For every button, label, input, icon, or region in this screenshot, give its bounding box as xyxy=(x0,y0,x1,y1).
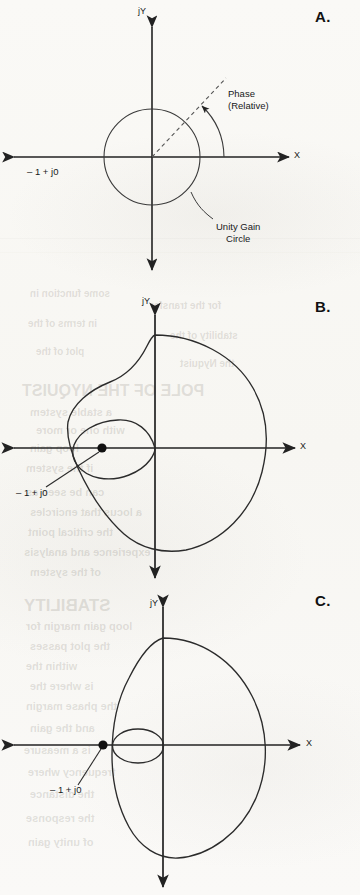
panel-b-leader-line xyxy=(46,452,99,487)
panel-b-critical-point-dot xyxy=(97,443,106,452)
panel-c-outer-locus xyxy=(112,638,265,858)
phase-ray-dashed xyxy=(152,78,226,157)
panel-c-y-axis-label: jY xyxy=(150,598,158,608)
panel-c-critical-point-label: – 1 + j0 xyxy=(50,784,81,796)
panel-c-leader-line xyxy=(78,749,101,785)
panel-a-y-axis-label: jY xyxy=(138,6,146,16)
panel-a-plot xyxy=(0,0,360,280)
phase-arc-arrow xyxy=(202,106,224,157)
panel-b-y-axis-label: jY xyxy=(142,296,150,306)
panel-a-phase-label: Phase (Relative) xyxy=(228,88,269,111)
unity-gain-circle-leader xyxy=(191,192,213,219)
panel-b-outer-locus xyxy=(67,335,266,551)
panel-b-x-axis-label: X xyxy=(300,441,306,451)
figure-panel-b xyxy=(0,290,360,580)
panel-c-inner-loop xyxy=(113,729,164,763)
panel-a-unity-gain-circle-label: Unity Gain Circle xyxy=(216,221,260,244)
panel-c-x-axis-label: X xyxy=(306,738,312,748)
panel-b-inner-loop xyxy=(73,420,155,479)
panel-b-plot xyxy=(0,290,360,580)
panel-letter-b: B. xyxy=(315,298,331,315)
figure-panel-a xyxy=(0,0,360,280)
panel-a-critical-point-label: – 1 + j0 xyxy=(27,166,58,178)
panel-a-x-axis-label: X xyxy=(294,150,300,160)
panel-b-critical-point-label: – 1 + j0 xyxy=(16,487,47,499)
panel-letter-c: C. xyxy=(315,592,331,609)
panel-c-critical-point-dot xyxy=(98,740,107,749)
panel-letter-a: A. xyxy=(315,8,331,25)
